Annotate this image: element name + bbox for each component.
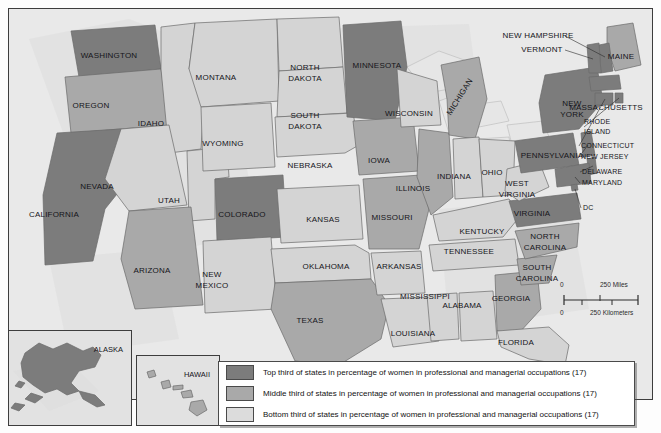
label-wyoming: WYOMING xyxy=(202,139,243,148)
legend-swatch-middle-third xyxy=(226,386,254,401)
label-north-dakota-2: DAKOTA xyxy=(288,74,322,83)
label-connecticut: CONNECTICUT xyxy=(581,142,635,149)
label-north-carolina-2: CAROLINA xyxy=(524,243,567,252)
label-south-dakota-2: DAKOTA xyxy=(288,122,322,131)
label-mississippi: MISSISSIPPI xyxy=(400,292,450,301)
legend-row-top: Top third of states in percentage of wom… xyxy=(219,362,634,383)
hawaii-label: HAWAII xyxy=(184,370,210,379)
label-oregon: OREGON xyxy=(73,101,110,110)
label-montana: MONTANA xyxy=(196,73,237,82)
scale-km-value: 250 Kilometers xyxy=(590,309,633,316)
label-nebraska: NEBRASKA xyxy=(287,161,333,170)
legend-label-top-third: Top third of states in percentage of wom… xyxy=(263,368,586,377)
label-south-dakota-1: SOUTH xyxy=(291,111,320,120)
state-indiana xyxy=(453,137,483,199)
legend-swatch-bottom-third xyxy=(226,407,254,422)
label-florida: FLORIDA xyxy=(498,338,535,347)
state-dc xyxy=(571,184,578,191)
label-virginia: VIRGINIA xyxy=(514,209,551,218)
label-arizona: ARIZONA xyxy=(134,266,171,275)
state-wyoming xyxy=(201,103,275,171)
label-ohio: OHIO xyxy=(481,168,502,177)
label-massachusetts: MASSACHUSETTS xyxy=(569,103,643,112)
map-figure: WASHINGTON OREGON CALIFORNIA IDAHO NEVAD… xyxy=(0,0,661,433)
label-louisiana: LOUISIANA xyxy=(391,329,436,338)
legend-row-middle: Middle third of states in percentage of … xyxy=(219,383,634,404)
label-maine: MAINE xyxy=(608,52,634,61)
label-new-hampshire: NEW HAMPSHIRE xyxy=(502,31,573,40)
scale-km-zero: 0 xyxy=(560,309,564,316)
scale-miles-zero: 0 xyxy=(560,281,564,288)
legend-row-bottom: Bottom third of states in percentage of … xyxy=(219,404,634,425)
hawaii-oahu xyxy=(161,380,171,389)
label-pennsylvania: PENNSYLVANIA xyxy=(521,151,584,160)
label-missouri: MISSOURI xyxy=(371,213,412,222)
label-minnesota: MINNESOTA xyxy=(353,61,402,70)
label-washington: WASHINGTON xyxy=(81,51,138,60)
label-west-virginia-2: VIRGINIA xyxy=(499,190,536,199)
label-north-carolina-1: NORTH xyxy=(530,232,559,241)
label-idaho: IDAHO xyxy=(138,119,164,128)
label-nevada: NEVADA xyxy=(80,182,114,191)
label-rhode-island-1: RHODE xyxy=(584,118,610,125)
state-massachusetts xyxy=(589,75,621,91)
label-kentucky: KENTUCKY xyxy=(459,227,505,236)
legend-swatch-top-third xyxy=(226,365,254,380)
label-tennessee: TENNESSEE xyxy=(444,247,494,256)
label-georgia: GEORGIA xyxy=(492,294,531,303)
label-dc: DC xyxy=(583,204,594,211)
label-delaware: DELAWARE xyxy=(582,168,622,175)
scale-bar: 0 250 Miles 0 250 Kilometers xyxy=(560,281,652,321)
label-arkansas: ARKANSAS xyxy=(376,262,421,271)
scale-bar-graphic xyxy=(562,293,654,309)
label-maryland: MARYLAND xyxy=(582,179,622,186)
label-kansas: KANSAS xyxy=(306,215,340,224)
alaska-label: ALASKA xyxy=(94,345,123,354)
label-colorado: COLORADO xyxy=(218,210,265,219)
label-california: CALIFORNIA xyxy=(29,210,79,219)
state-colorado xyxy=(215,175,287,241)
label-new-mexico-2: MEXICO xyxy=(196,281,229,290)
label-texas: TEXAS xyxy=(296,316,323,325)
hawaii-canvas xyxy=(137,356,217,423)
state-kansas xyxy=(277,185,363,243)
label-oklahoma: OKLAHOMA xyxy=(303,262,350,271)
label-alabama: ALABAMA xyxy=(442,301,482,310)
hawaii-molokai xyxy=(173,385,183,390)
state-montana xyxy=(189,19,279,107)
alaska-inset[interactable]: ALASKA xyxy=(8,330,132,426)
state-arkansas xyxy=(371,251,425,295)
label-rhode-island-2: ISLAND xyxy=(584,128,611,135)
legend-label-middle-third: Middle third of states in percentage of … xyxy=(263,389,597,398)
label-north-dakota-1: NORTH xyxy=(290,63,319,72)
label-vermont: VERMONT xyxy=(521,45,562,54)
label-utah: UTAH xyxy=(158,196,180,205)
label-illinois: ILLINOIS xyxy=(396,184,431,193)
label-new-mexico-1: NEW xyxy=(202,270,222,279)
label-west-virginia-1: WEST xyxy=(505,179,529,188)
scale-miles-value: 250 Miles xyxy=(600,281,628,288)
state-arizona xyxy=(121,207,203,309)
label-wisconsin: WISCONSIN xyxy=(385,109,433,118)
label-south-carolina-1: SOUTH xyxy=(523,263,552,272)
label-new-jersey: NEW JERSEY xyxy=(581,153,629,160)
label-iowa: IOWA xyxy=(368,156,390,165)
label-indiana: INDIANA xyxy=(437,172,471,181)
legend-label-bottom-third: Bottom third of states in percentage of … xyxy=(263,410,599,419)
hawaii-inset[interactable]: HAWAII xyxy=(136,355,220,426)
label-south-carolina-2: CAROLINA xyxy=(516,274,559,283)
map-legend: Top third of states in percentage of wom… xyxy=(218,361,635,426)
